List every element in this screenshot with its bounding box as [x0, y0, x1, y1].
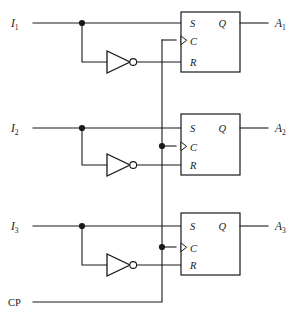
not-gate-3-bubble-icon	[130, 262, 137, 269]
flipflop-2-pin-c: C	[190, 142, 198, 153]
wire-input-1-branch-to-inverter	[82, 23, 107, 62]
input-label-3: I3	[10, 220, 19, 235]
flipflop-1-pin-s: S	[190, 18, 196, 29]
flipflop-2-pin-q: Q	[218, 123, 226, 134]
output-label-2: A2	[274, 122, 286, 137]
flipflop-1-pin-q: Q	[218, 18, 226, 29]
flipflop-3-pin-s: S	[190, 221, 196, 232]
not-gate-1-icon	[107, 51, 130, 73]
not-gate-2-bubble-icon	[130, 162, 137, 169]
stage-2-group: S C R Q	[33, 114, 268, 176]
wire-input-2-branch-to-inverter	[82, 128, 107, 165]
input-label-2: I2	[10, 122, 19, 137]
flipflop-3-pin-c: C	[190, 243, 198, 254]
flipflop-1-pin-c: C	[190, 36, 198, 47]
not-gate-1-bubble-icon	[130, 59, 137, 66]
not-gate-2-icon	[107, 154, 130, 176]
flipflop-3-pin-r: R	[189, 260, 197, 271]
output-label-1: A1	[274, 17, 286, 32]
flipflop-2-pin-s: S	[190, 123, 196, 134]
clock-label: CP	[8, 297, 21, 308]
stage-1-group: S C R Q	[33, 12, 268, 73]
output-label-3: A3	[274, 220, 286, 235]
stage-3-group: S C R Q	[33, 213, 268, 276]
not-gate-3-icon	[107, 254, 130, 276]
wire-clock-bus	[33, 40, 162, 302]
circuit-diagram: S C R Q S C R Q	[0, 0, 305, 320]
flipflop-1-pin-r: R	[189, 57, 197, 68]
input-label-1: I1	[10, 17, 19, 32]
flipflop-3-pin-q: Q	[218, 221, 226, 232]
wire-input-3-branch-to-inverter	[82, 226, 107, 265]
circuit-canvas: S C R Q S C R Q	[0, 0, 305, 320]
flipflop-2-pin-r: R	[189, 160, 197, 171]
